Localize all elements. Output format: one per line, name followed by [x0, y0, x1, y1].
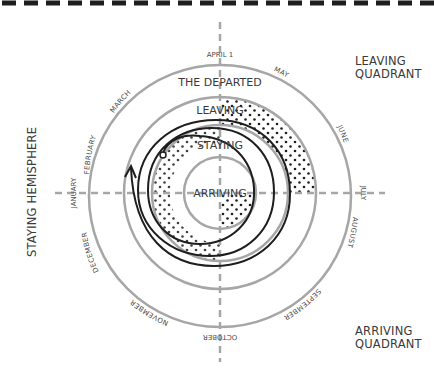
- month-label-july: JULY: [359, 185, 367, 201]
- month-label-january: JANUARY: [70, 177, 78, 209]
- leaving-quadrant-line2: QUADRANT: [355, 68, 422, 81]
- arriving-quadrant-line2: QUADRANT: [355, 338, 422, 351]
- month-label-november: NOVEMBER: [129, 298, 170, 327]
- month-label-december: DECEMBER: [80, 231, 100, 273]
- spiral-start-marker: [160, 152, 166, 158]
- staying-hemisphere-label: STAYING HEMISPHERE: [25, 129, 39, 257]
- arriving-quadrant-label: ARRIVING QUADRANT: [355, 325, 422, 351]
- ring-label-staying: STAYING: [197, 139, 243, 152]
- ring-label-departed: THE DEPARTED: [177, 76, 261, 89]
- month-label-april: APRIL 1: [207, 51, 234, 59]
- ring-label-arriving: ARRIVING: [193, 187, 247, 200]
- leaving-quadrant-label: LEAVING QUADRANT: [355, 55, 422, 81]
- month-label-october: OCTOBER: [203, 333, 237, 341]
- ring-label-leaving: LEAVING: [196, 104, 243, 117]
- month-label-june: JUNE: [335, 123, 350, 144]
- month-label-september: SEPTEMBER: [282, 287, 322, 321]
